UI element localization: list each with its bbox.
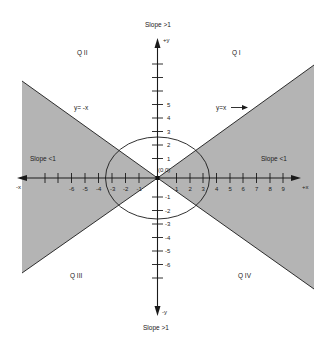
line-label-y-eq-neg-x: y= -x <box>74 104 89 112</box>
y-axis-arrow-down <box>155 306 161 316</box>
axis-label-minus-y: -y <box>162 309 167 315</box>
arrow-right-icon <box>231 105 248 110</box>
y-tick-label: -2 <box>165 208 171 214</box>
line-label-y-eq-x: y=x <box>216 104 227 112</box>
axis-label-plus-x: +x <box>302 184 309 190</box>
y-tick-label: 1 <box>167 156 171 162</box>
diagram-svg: -6 -5 -4 -3 -2 -1 1 2 3 4 5 6 7 8 9 1 2 … <box>0 0 329 346</box>
x-tick-label: -3 <box>110 186 116 192</box>
y-tick-label: -6 <box>165 262 171 268</box>
shaded-region-right <box>158 65 315 289</box>
quadrant-label-q1: Q I <box>232 49 241 57</box>
shaded-region-left <box>22 81 158 273</box>
y-tick-label: 5 <box>167 102 171 108</box>
slope-label-bottom: Slope >1 <box>143 324 169 332</box>
y-tick-label: -1 <box>165 194 171 200</box>
slope-label-top: Slope >1 <box>145 21 171 29</box>
y-axis-arrow-up <box>155 38 161 48</box>
quadrant-label-q2: Q II <box>77 49 88 57</box>
x-tick-label: -4 <box>96 186 102 192</box>
slope-label-left: Slope <1 <box>30 155 56 163</box>
y-tick-label: -3 <box>165 221 171 227</box>
axis-label-minus-x: -x <box>16 184 21 190</box>
y-tick-label: 4 <box>167 115 171 121</box>
x-tick-label: -5 <box>83 186 89 192</box>
slope-regions-diagram: -6 -5 -4 -3 -2 -1 1 2 3 4 5 6 7 8 9 1 2 … <box>0 0 329 346</box>
axis-label-plus-y: +y <box>163 37 170 43</box>
y-tick-label: 2 <box>167 142 171 148</box>
quadrant-label-q4: Q IV <box>238 272 252 280</box>
quadrant-label-q3: Q III <box>70 272 82 280</box>
y-tick-label: -4 <box>165 235 171 241</box>
y-tick-label: -5 <box>165 248 171 254</box>
origin-point <box>156 176 160 180</box>
x-tick-label: -1 <box>137 186 143 192</box>
y-tick-label: 3 <box>167 129 171 135</box>
origin-label: (0,0) <box>158 167 170 173</box>
slope-label-right: Slope <1 <box>261 155 287 163</box>
x-tick-label: -2 <box>123 186 129 192</box>
x-tick-label: -6 <box>69 186 75 192</box>
